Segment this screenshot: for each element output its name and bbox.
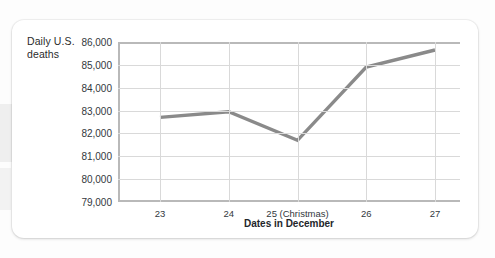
gridline-vertical xyxy=(366,42,367,202)
gridline-horizontal xyxy=(118,156,460,157)
gridline-vertical xyxy=(298,42,299,202)
x-axis-title: Dates in December xyxy=(118,218,460,229)
gridline-horizontal xyxy=(118,179,460,180)
y-axis-tick-label: 79,000 xyxy=(81,197,112,208)
page-background: Daily U.S. deaths 86,00085,00084,00083,0… xyxy=(0,0,495,258)
y-axis-tick-label: 80,000 xyxy=(81,174,112,185)
y-axis-tick-label: 84,000 xyxy=(81,82,112,93)
y-axis-tick-label: 83,000 xyxy=(81,105,112,116)
gridline-vertical xyxy=(435,42,436,202)
gridline-vertical xyxy=(229,42,230,202)
gridline-horizontal xyxy=(118,88,460,89)
gridline-horizontal xyxy=(118,65,460,66)
y-axis-tick-label: 85,000 xyxy=(81,59,112,70)
scan-artifact-band xyxy=(0,168,11,210)
gridline-vertical xyxy=(160,42,161,202)
y-axis-tick-label: 86,000 xyxy=(81,37,112,48)
gridline-horizontal xyxy=(118,133,460,134)
y-axis-tick-label: 81,000 xyxy=(81,151,112,162)
y-axis-tick-label: 82,000 xyxy=(81,128,112,139)
gridline-horizontal xyxy=(118,111,460,112)
chart-card: Daily U.S. deaths 86,00085,00084,00083,0… xyxy=(12,20,478,238)
plot-area: 86,00085,00084,00083,00082,00081,00080,0… xyxy=(118,42,460,202)
data-series-line xyxy=(118,42,460,202)
line-chart: Daily U.S. deaths 86,00085,00084,00083,0… xyxy=(12,20,478,238)
